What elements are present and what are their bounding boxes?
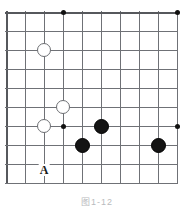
black-stone-4[interactable] (75, 138, 90, 153)
go-board[interactable]: A (0, 0, 194, 194)
grid-line-vertical-5 (101, 11, 102, 184)
white-stone-0[interactable] (37, 43, 51, 57)
grid-line-horizontal-6 (5, 126, 178, 127)
star-point-3 (175, 124, 180, 129)
grid-line-horizontal-0 (5, 12, 178, 14)
white-stone-2[interactable] (37, 119, 51, 133)
star-point-0 (61, 10, 66, 15)
star-point-2 (61, 124, 66, 129)
go-diagram-figure: A 图1-12 (0, 0, 194, 207)
star-point-1 (175, 10, 180, 15)
grid-line-vertical-6 (120, 11, 121, 184)
black-stone-5[interactable] (151, 138, 166, 153)
grid-line-vertical-3 (63, 11, 64, 184)
grid-line-horizontal-4 (5, 88, 178, 89)
grid-line-vertical-4 (82, 11, 83, 184)
grid-line-vertical-1 (25, 11, 26, 184)
white-stone-1[interactable] (56, 100, 70, 114)
grid-line-vertical-8 (158, 11, 159, 184)
grid-line-horizontal-1 (5, 31, 178, 32)
grid-line-vertical-7 (139, 11, 140, 184)
figure-caption: 图1-12 (0, 196, 194, 207)
point-label-a[interactable]: A (39, 164, 50, 176)
grid-line-horizontal-3 (5, 69, 178, 70)
grid-line-vertical-0 (6, 11, 8, 184)
grid-line-horizontal-8 (5, 164, 178, 165)
grid-line-horizontal-2 (5, 50, 178, 51)
grid-line-horizontal-5 (5, 107, 178, 108)
grid-line-horizontal-9 (5, 183, 178, 184)
grid-line-vertical-9 (177, 11, 178, 184)
grid-line-vertical-2 (44, 11, 45, 184)
black-stone-3[interactable] (94, 119, 109, 134)
